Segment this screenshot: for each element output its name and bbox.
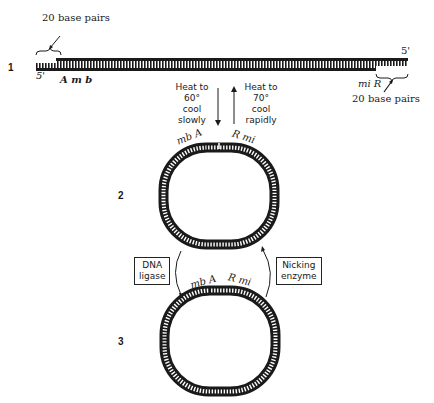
step-number-1: 1 bbox=[8, 62, 14, 73]
left-5prime-label: 5' bbox=[36, 70, 45, 81]
right-sequence-label: mi R bbox=[358, 78, 381, 89]
nicking-enzyme-box: Nicking enzyme bbox=[276, 257, 322, 285]
right-5prime-label: 5' bbox=[401, 45, 410, 56]
circular-dna-step-2 bbox=[160, 143, 278, 248]
left-brace bbox=[36, 48, 61, 55]
right-20bp-label: 20 base pairs bbox=[352, 93, 420, 104]
linear-dna bbox=[36, 58, 408, 71]
circular-dna-step-3 bbox=[161, 287, 279, 395]
left-20bp-label: 20 base pairs bbox=[42, 12, 110, 23]
step-number-2: 2 bbox=[118, 190, 124, 201]
dna-ligase-box: DNA ligase bbox=[134, 257, 170, 285]
step-number-3: 3 bbox=[118, 336, 124, 347]
dna-diagram-graphics bbox=[0, 0, 434, 403]
heat-70-cool-rapidly-label: Heat to 70° cool rapidly bbox=[236, 82, 286, 126]
heat-60-cool-slowly-label: Heat to 60° cool slowly bbox=[170, 82, 214, 126]
left-sequence-label: A m b bbox=[60, 74, 92, 85]
